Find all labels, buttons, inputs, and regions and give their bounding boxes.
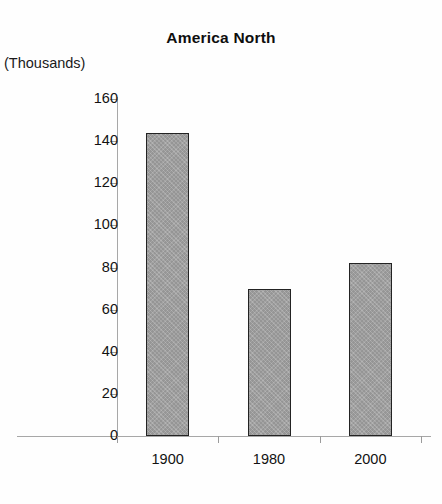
y-axis-tick-label: 40 bbox=[56, 343, 118, 359]
y-axis-tick-label: 80 bbox=[56, 259, 118, 275]
y-axis-tick-label-wrap: 100 bbox=[40, 225, 118, 226]
y-axis-tick-label-wrap: 0 bbox=[40, 436, 118, 437]
y-axis-tick-label-wrap: 40 bbox=[40, 352, 118, 353]
y-axis-tick-label: 120 bbox=[56, 174, 118, 190]
y-axis-tick-label-wrap: 160 bbox=[40, 99, 118, 100]
x-axis-label-1900: 1900 bbox=[117, 451, 218, 467]
bar-1900 bbox=[146, 133, 189, 436]
y-axis-tick-label: 100 bbox=[56, 216, 118, 232]
y-axis-tick-label-wrap: 80 bbox=[40, 268, 118, 269]
plot-area: 160140120100806040200 190019802000 bbox=[0, 0, 442, 504]
y-axis-tick-label-wrap: 60 bbox=[40, 310, 118, 311]
x-axis-label-1980: 1980 bbox=[218, 451, 319, 467]
y-axis-tick-label: 140 bbox=[56, 132, 118, 148]
y-axis-tick-label: 0 bbox=[56, 427, 118, 443]
x-axis-tick bbox=[320, 436, 321, 443]
bar-2000 bbox=[349, 263, 392, 436]
bar-chart: America North (Thousands) 16014012010080… bbox=[0, 0, 442, 504]
x-axis-tick bbox=[421, 436, 422, 443]
y-axis-tick-label-wrap: 20 bbox=[40, 394, 118, 395]
y-axis-tick-label: 20 bbox=[56, 385, 118, 401]
x-axis-label-2000: 2000 bbox=[320, 451, 421, 467]
y-axis-tick-label: 60 bbox=[56, 301, 118, 317]
x-axis-tick bbox=[218, 436, 219, 443]
x-axis-tick bbox=[117, 436, 118, 443]
bar-1980 bbox=[248, 289, 291, 436]
y-axis-tick-label-wrap: 120 bbox=[40, 183, 118, 184]
y-axis-tick-label-wrap: 140 bbox=[40, 141, 118, 142]
y-axis-tick-label: 160 bbox=[56, 90, 118, 106]
